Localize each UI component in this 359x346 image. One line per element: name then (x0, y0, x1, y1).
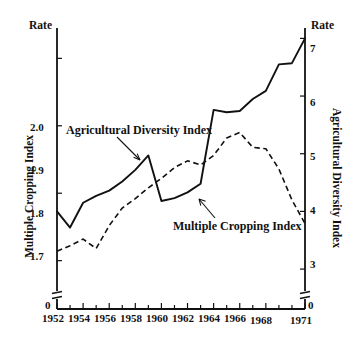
x-tick-label-1952: 1952 (42, 312, 64, 324)
x-tick-label-1971: 1971 (290, 314, 312, 326)
right-tick-label-6: 6 (310, 96, 316, 108)
left-rate-label: Rate (29, 19, 52, 31)
x-tick-label-1964: 1964 (198, 312, 220, 324)
right-tick-label-3: 3 (310, 258, 316, 270)
x-tick-label-1958: 1958 (120, 312, 142, 324)
right-tick-label-7: 7 (310, 42, 316, 54)
x-tick-label-1966: 1966 (224, 312, 246, 324)
x-tick-label-1960: 1960 (146, 312, 168, 324)
left-tick-label-0: 0 (45, 299, 51, 311)
chart-axes (52, 28, 310, 309)
right-axis-break-marker (300, 292, 310, 299)
annotation-leader-agricultural-diversity-index (117, 137, 140, 160)
x-tick-label-1954: 1954 (68, 312, 90, 324)
x-tick-label-1956: 1956 (94, 312, 116, 324)
x-tick-label-1968: 1968 (250, 314, 272, 326)
chart-plot-area (0, 0, 359, 346)
right-rate-label: Rate (311, 19, 334, 31)
right-tick-label-5: 5 (310, 150, 316, 162)
left-axis-break-marker (52, 292, 62, 299)
right-tick-label-4: 4 (310, 204, 316, 216)
left-axis-title: Multiple Cropping Index (23, 135, 35, 258)
annotation-label-agricultural-diversity-index: Agricultural Diversity Index (66, 123, 212, 138)
annotation-label-multiple-cropping-index: Multiple Cropping Index (173, 219, 301, 234)
left-tick-label-2-0: 2.0 (30, 121, 44, 133)
annotation-leader-multiple-cropping-index (199, 199, 215, 218)
chart-figure: Rate Rate 2.0 1.9 1.8 1.7 0 7 6 5 4 3 0 … (0, 0, 359, 346)
right-tick-label-0: 0 (308, 299, 314, 311)
right-axis-title: Agricultural Diversity Index (331, 108, 343, 248)
x-tick-label-1962: 1962 (172, 312, 194, 324)
